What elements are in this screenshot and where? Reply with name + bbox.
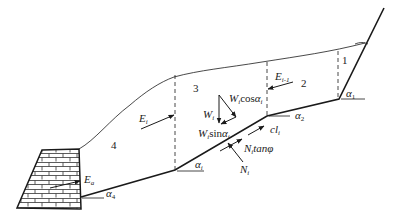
force-e-i-minus-1-label: Ei-1 — [274, 70, 290, 84]
slice-2-label: 2 — [301, 77, 307, 89]
slice-3-label: 3 — [193, 82, 199, 94]
force-w-sin-label: Wisinαi — [198, 127, 230, 141]
force-n-tan-label: Nitanφ — [243, 142, 273, 156]
force-cl-arrow — [248, 126, 264, 135]
angle-alpha-1-label: α1 — [346, 87, 356, 101]
force-w-i-label: Wi — [203, 108, 214, 122]
slice-1-label: 1 — [342, 54, 348, 66]
force-e-i-label: Ei — [138, 112, 148, 126]
force-e-a-label: Ea — [83, 173, 95, 187]
angle-alpha-i-label: αi — [195, 158, 203, 172]
force-n-i-arrow — [228, 143, 243, 162]
force-w-sin-arrow — [221, 117, 236, 124]
angle-alpha-2-label: α2 — [295, 109, 305, 123]
slice-4-label: 4 — [111, 139, 117, 151]
angle-alpha-4-label: α4 — [106, 187, 116, 201]
force-w-cos-label: Wicosαi — [229, 92, 263, 106]
retaining-wall — [17, 149, 81, 209]
force-cl-label: cli — [270, 123, 280, 137]
slope-diagram: 1 2 3 4 Ei Ei-1 Ea Wicosαi Wi Wisinαi cl… — [0, 0, 398, 220]
force-n-i-label: Ni — [239, 163, 249, 177]
